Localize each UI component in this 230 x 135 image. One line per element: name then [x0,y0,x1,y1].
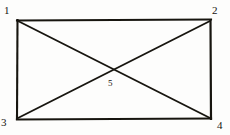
edge-top [17,20,211,21]
edge-right [211,20,212,119]
vertex-label-1: 1 [4,5,10,16]
vertex-label-5: 5 [108,79,113,88]
edge-left [17,20,18,119]
vertex-label-2: 2 [212,5,218,16]
vertex-label-3: 3 [1,117,7,128]
vertex-label-4: 4 [217,120,223,131]
figure-canvas [0,0,230,135]
geometry-figure: 1 2 3 4 5 [0,0,230,135]
edge-bottom [17,119,211,120]
